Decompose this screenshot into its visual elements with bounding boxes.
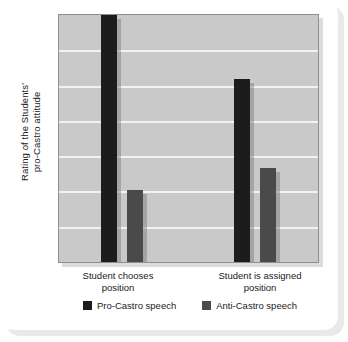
y-axis-title-line-2: pro-Castro attitude [31, 92, 43, 173]
chart-figure: Rating of the Students' pro-Castro attit… [0, 0, 348, 342]
bar-body [234, 79, 250, 262]
legend-label-pro-castro: Pro-Castro speech [97, 300, 176, 311]
bar-1-0 [234, 79, 250, 262]
bar-0-1 [127, 190, 143, 262]
gridline [59, 50, 318, 52]
category-label-0-line-1: Student chooses [58, 270, 178, 282]
legend-label-anti-castro: Anti-Castro speech [216, 300, 297, 311]
chart-card: Rating of the Students' pro-Castro attit… [0, 0, 338, 330]
bar-0-0 [101, 15, 117, 262]
chart-legend: Pro-Castro speech Anti-Castro speech [58, 300, 322, 311]
bar-body [260, 168, 276, 262]
legend-swatch-pro-castro [83, 301, 92, 310]
legend-item-anti-castro: Anti-Castro speech [202, 300, 297, 311]
bar-shadow [117, 19, 121, 263]
gridline [59, 156, 318, 158]
bar-shadow [143, 194, 147, 263]
category-label-1-line-2: position [198, 282, 322, 294]
y-axis-title-line-1: Rating of the Students' [19, 83, 31, 181]
bar-1-1 [260, 168, 276, 262]
legend-swatch-anti-castro [202, 301, 211, 310]
legend-item-pro-castro: Pro-Castro speech [83, 300, 176, 311]
category-label-0: Student chooses position [58, 270, 178, 294]
gridline [59, 121, 318, 123]
bar-shadow [276, 172, 280, 263]
plot-area [58, 14, 319, 263]
bar-body [101, 15, 117, 262]
bar-body [127, 190, 143, 262]
category-label-1-line-1: Student is assigned [198, 270, 322, 282]
gridline [59, 86, 318, 88]
bar-shadow [250, 83, 254, 263]
category-label-0-line-2: position [58, 282, 178, 294]
y-axis-title: Rating of the Students' pro-Castro attit… [9, 52, 53, 212]
category-label-1: Student is assigned position [198, 270, 322, 294]
